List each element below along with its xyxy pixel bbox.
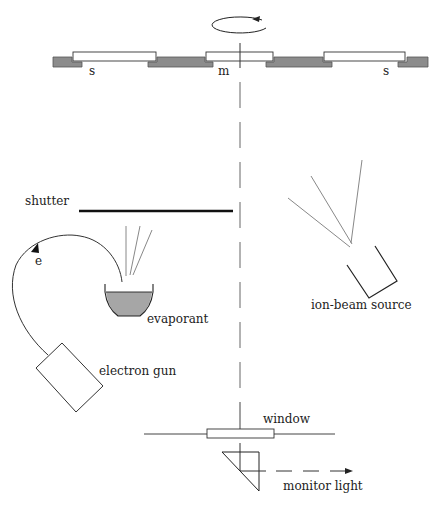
rotation-arrow-icon [212,16,266,33]
electron-label: e [35,254,42,268]
electron-gun-label: electron gun [99,364,176,378]
deposition-apparatus-diagram: s m s shutter ion-beam source evaporant … [0,0,441,510]
sample-left-label: s [89,64,95,78]
sample-right-label: s [383,64,389,78]
window [207,429,274,438]
ion-source-label: ion-beam source [311,298,412,312]
sample-right [324,52,405,61]
holder-segment-3 [266,57,332,67]
shutter-label: shutter [25,194,69,208]
monitor-label: m [218,64,230,78]
ion-source-housing [347,246,397,298]
evaporant-fill [106,292,152,316]
sample-left [73,52,156,61]
monitor-light-label: monitor light [283,479,363,493]
window-label: window [263,412,311,426]
evaporant-label: evaporant [147,312,209,326]
evaporant-plume [126,226,152,276]
crucible [105,284,153,316]
ion-beam-source [288,160,397,298]
holder-segment-2 [148,57,213,67]
